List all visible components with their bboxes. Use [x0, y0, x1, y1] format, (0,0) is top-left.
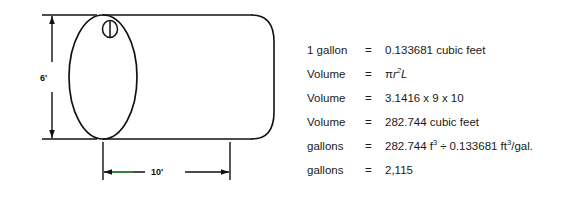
calc-row-value: 2,115: [385, 164, 413, 176]
calc-row-label: Volume: [307, 92, 365, 104]
calc-row-equals: =: [365, 44, 385, 56]
calc-row-equals: =: [365, 164, 385, 176]
calc-row: gallons = 282.744 f3÷0.133681 ft3/gal.: [307, 140, 585, 164]
calc-row-value-formula: πr2L: [385, 68, 407, 80]
calculation-list: 1 gallon = 0.133681 cubic feet Volume = …: [307, 44, 585, 188]
calc-row-value: 0.133681 cubic feet: [385, 44, 485, 56]
calc-row-label: gallons: [307, 164, 365, 176]
calc-row-label: 1 gallon: [307, 44, 365, 56]
height-arrow-up: [49, 16, 55, 24]
calc-row-equals: =: [365, 116, 385, 128]
length-variable: L: [401, 68, 407, 80]
dividend-value: 282.744 f: [385, 140, 433, 152]
length-dimension: [103, 142, 230, 180]
calc-row-value: 3.1416 x 9 x 10: [385, 92, 464, 104]
pi-symbol: π: [385, 68, 393, 80]
calc-row-label: Volume: [307, 116, 365, 128]
division-operator: ÷: [437, 140, 449, 152]
figure-root: 6' 10' 1 gallon = 0.133681 c: [0, 0, 585, 207]
height-dimension-label: 6': [40, 73, 47, 83]
length-dimension-label: 10': [151, 167, 163, 177]
calc-row-value: 282.744 cubic feet: [385, 116, 479, 128]
cylinder-diagram: 6' 10': [0, 0, 300, 207]
calc-row-equals: =: [365, 68, 385, 80]
length-arrow-left: [104, 169, 112, 175]
divisor-value: 0.133681 ft: [449, 140, 507, 152]
cylinder-body: [103, 15, 274, 139]
calc-row: Volume = 3.1416 x 9 x 10: [307, 92, 585, 116]
calc-row-label: Volume: [307, 68, 365, 80]
cylinder-right-cap: [252, 15, 274, 139]
calc-row-label: gallons: [307, 140, 365, 152]
calc-row-value-units: 282.744 f3÷0.133681 ft3/gal.: [385, 140, 533, 152]
calc-row-equals: =: [365, 140, 385, 152]
calc-row: gallons = 2,115: [307, 164, 585, 188]
tank-hatch-icon: [103, 21, 118, 38]
divisor-unit-tail: /gal.: [511, 140, 533, 152]
length-arrow-right: [221, 169, 229, 175]
calc-row: Volume = πr2L: [307, 68, 585, 92]
height-arrow-down: [49, 130, 55, 138]
calc-row: 1 gallon = 0.133681 cubic feet: [307, 44, 585, 68]
cylinder-diagram-svg: 6' 10': [0, 0, 300, 207]
calc-row-equals: =: [365, 92, 385, 104]
calc-row: Volume = 282.744 cubic feet: [307, 116, 585, 140]
